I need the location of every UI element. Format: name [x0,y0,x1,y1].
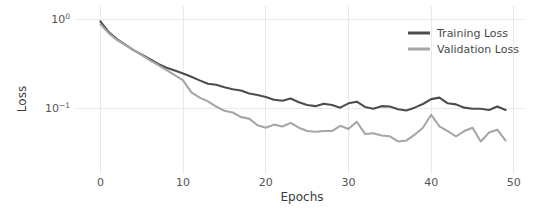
x-tick-label-50: 50 [507,176,521,189]
y-tick-label--1: 10−1 [45,101,70,115]
y-axis-title: Loss [15,86,29,112]
x-axis-title: Epochs [281,190,324,204]
chart-legend: Training LossValidation Loss [408,27,519,56]
x-tick-label-0: 0 [97,176,104,189]
x-tick-label-40: 40 [424,176,438,189]
loss-chart-canvas: 01020304050 10010−1 Epochs Loss Training… [0,0,551,215]
x-tick-label-30: 30 [341,176,355,189]
x-axis-tick-labels: 01020304050 [97,176,521,189]
y-tick-label-0: 100 [51,12,70,26]
loss-curve-figure: 01020304050 10010−1 Epochs Loss Training… [0,0,551,215]
legend-label-training-loss: Training Loss [436,27,508,40]
x-tick-label-20: 20 [259,176,273,189]
y-axis-tick-labels: 10010−1 [45,12,70,115]
series-line-validation-loss [100,24,505,141]
legend-label-validation-loss: Validation Loss [437,43,519,56]
x-tick-label-10: 10 [176,176,190,189]
